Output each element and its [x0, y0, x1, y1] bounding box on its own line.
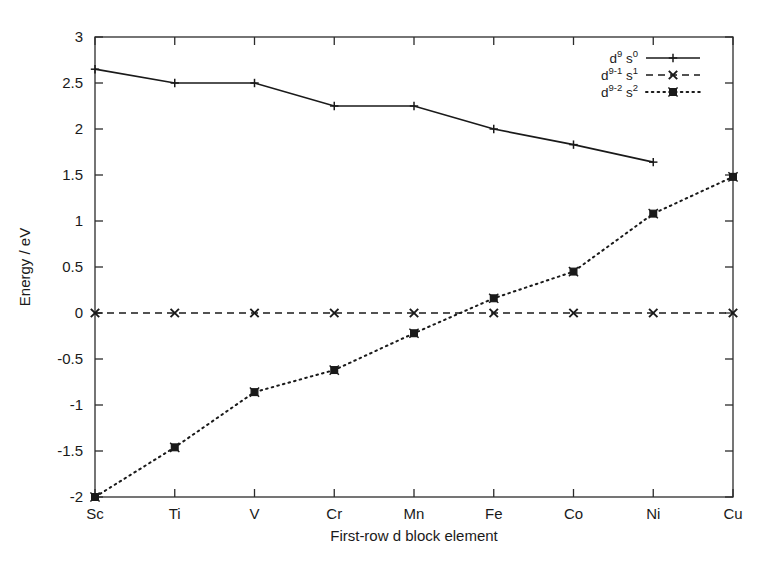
series-d9-1s1 — [91, 309, 737, 317]
data-point-marker — [90, 492, 99, 501]
legend-label: d9-2 s2 — [601, 82, 638, 100]
data-point-marker — [569, 140, 577, 148]
x-tick-label: Co — [564, 505, 583, 522]
data-point-marker — [649, 158, 657, 166]
y-tick-label: 2 — [75, 120, 83, 137]
data-point-marker — [409, 329, 418, 338]
chart-legend: d9 s0d9-1 s1d9-2 s2 — [601, 48, 700, 100]
x-tick-label: V — [249, 505, 259, 522]
data-point-marker — [728, 172, 737, 181]
x-axis-title: First-row d block element — [330, 527, 498, 544]
y-tick-label: 2.5 — [62, 74, 83, 91]
y-tick-label: -1.5 — [57, 442, 83, 459]
y-tick-label: -0.5 — [57, 350, 83, 367]
x-tick-label: Cr — [326, 505, 342, 522]
y-tick-label: 1.5 — [62, 166, 83, 183]
y-tick-label: 0.5 — [62, 258, 83, 275]
data-point-marker — [410, 102, 418, 110]
x-tick-label: Ni — [646, 505, 660, 522]
y-tick-label: -1 — [70, 396, 83, 413]
data-point-marker — [250, 79, 258, 87]
data-point-marker — [569, 267, 578, 276]
legend-label: d9 s0 — [609, 48, 638, 66]
data-point-marker — [91, 65, 99, 73]
data-point-marker — [489, 294, 498, 303]
series-layer — [90, 65, 737, 502]
legend-label: d9-1 s1 — [601, 65, 638, 83]
series-d9s0 — [91, 65, 658, 166]
x-tick-label: Fe — [485, 505, 503, 522]
data-point-marker — [330, 102, 338, 110]
data-point-marker — [669, 54, 677, 62]
x-tick-label: Mn — [404, 505, 425, 522]
data-point-marker — [668, 87, 677, 96]
data-point-marker — [490, 125, 498, 133]
data-point-marker — [330, 365, 339, 374]
y-tick-label: 1 — [75, 212, 83, 229]
series-d9-2s2 — [90, 172, 737, 501]
line-chart-svg: -2-1.5-1-0.500.511.522.53 ScTiVCrMnFeCoN… — [0, 0, 773, 567]
data-point-marker — [250, 388, 259, 397]
x-tick-label: Ti — [169, 505, 181, 522]
data-point-marker — [649, 209, 658, 218]
data-point-marker — [171, 79, 179, 87]
data-point-marker — [170, 443, 179, 452]
y-axis-title: Energy / eV — [16, 228, 33, 306]
x-tick-label: Cu — [723, 505, 742, 522]
y-tick-label: -2 — [70, 488, 83, 505]
chart-figure: -2-1.5-1-0.500.511.522.53 ScTiVCrMnFeCoN… — [0, 0, 773, 567]
y-tick-label: 3 — [75, 28, 83, 45]
y-tick-label: 0 — [75, 304, 83, 321]
x-tick-label: Sc — [86, 505, 104, 522]
